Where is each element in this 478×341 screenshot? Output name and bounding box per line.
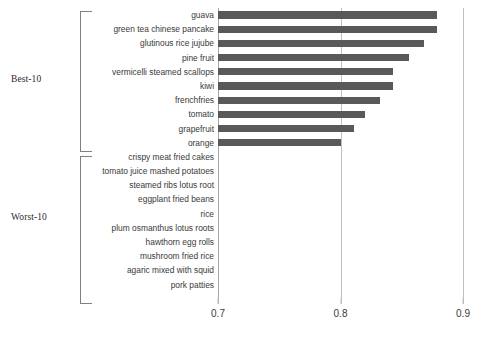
bar-row xyxy=(218,93,463,107)
category-label: steamed ribs lotus root xyxy=(96,178,214,192)
bar-row xyxy=(218,36,463,50)
bar xyxy=(218,97,380,104)
x-tick-label: 0.9 xyxy=(456,308,470,319)
bar xyxy=(218,139,341,146)
category-label-column: guavagreen tea chinese pancakeglutinous … xyxy=(96,8,214,292)
bar-row xyxy=(218,8,463,22)
category-label: green tea chinese pancake xyxy=(96,22,214,36)
x-tickmark xyxy=(218,298,219,304)
bar xyxy=(218,40,424,47)
category-label: tomato xyxy=(96,107,214,121)
bar-row xyxy=(218,79,463,93)
category-label: glutinous rice jujube xyxy=(96,36,214,50)
bar-row xyxy=(218,136,463,150)
category-label: grapefruit xyxy=(96,122,214,136)
bar-row xyxy=(218,65,463,79)
bar-row xyxy=(218,150,463,164)
bar xyxy=(218,54,409,61)
plot-area xyxy=(218,8,463,304)
category-label: frenchfries xyxy=(96,93,214,107)
bar-row xyxy=(218,51,463,65)
category-label: guava xyxy=(96,8,214,22)
bar-row xyxy=(218,22,463,36)
bar xyxy=(218,125,354,132)
bar-rows xyxy=(218,8,463,304)
bar-row xyxy=(218,278,463,292)
bar xyxy=(218,111,365,118)
bar xyxy=(218,11,437,18)
category-label: pork patties xyxy=(96,278,214,292)
group-label-worst-10: Worst-10 xyxy=(11,212,47,222)
category-label: agaric mixed with squid xyxy=(96,263,214,277)
x-tickmark xyxy=(340,298,341,304)
bar-row xyxy=(218,107,463,121)
category-label: plum osmanthus lotus roots xyxy=(96,221,214,235)
bar-chart: Best-10 Worst-10 guavagreen tea chinese … xyxy=(0,0,478,341)
bar-row xyxy=(218,122,463,136)
group-bracket-worst-10 xyxy=(80,156,92,304)
category-label: pine fruit xyxy=(96,51,214,65)
x-axis-ticks: 0.70.80.9 xyxy=(218,308,463,324)
bar xyxy=(218,26,437,33)
gridline-0-9 xyxy=(463,8,464,304)
category-label: tomato juice mashed potatoes xyxy=(96,164,214,178)
category-label: vermicelli steamed scallops xyxy=(96,65,214,79)
bar xyxy=(218,82,393,89)
bar-row xyxy=(218,263,463,277)
group-bracket-best-10 xyxy=(80,11,92,152)
category-label: rice xyxy=(96,207,214,221)
bar-row xyxy=(218,192,463,206)
x-tick-label: 0.8 xyxy=(334,308,348,319)
category-label: hawthorn egg rolls xyxy=(96,235,214,249)
category-label: mushroom fried rice xyxy=(96,249,214,263)
bar-row xyxy=(218,235,463,249)
bar xyxy=(218,68,393,75)
x-tickmark xyxy=(463,298,464,304)
bar-row xyxy=(218,221,463,235)
bar-row xyxy=(218,207,463,221)
category-label: orange xyxy=(96,136,214,150)
category-label: eggplant fried beans xyxy=(96,192,214,206)
category-label: kiwi xyxy=(96,79,214,93)
category-label: crispy meat fried cakes xyxy=(96,150,214,164)
x-tick-label: 0.7 xyxy=(211,308,225,319)
bar-row xyxy=(218,249,463,263)
group-label-best-10: Best-10 xyxy=(11,74,41,84)
bar-row xyxy=(218,178,463,192)
bar-row xyxy=(218,164,463,178)
